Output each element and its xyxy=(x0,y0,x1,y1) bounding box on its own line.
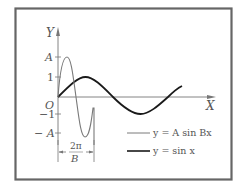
legend-label-sin-x: y = sin x xyxy=(152,145,195,156)
period-numerator: 2π xyxy=(70,141,82,151)
y-ticks: A 1 −1 − A xyxy=(34,51,61,140)
tick-label-neg1: −1 xyxy=(39,108,55,121)
curve-sin-x xyxy=(58,77,182,114)
sine-graph-figure: X Y O A 1 −1 − A 2π B y = A sin Bx y = s… xyxy=(0,0,242,186)
y-axis-label: Y xyxy=(46,26,55,40)
left-arrow-icon xyxy=(59,151,64,154)
period-denominator: B xyxy=(70,153,78,164)
tick-label-1: 1 xyxy=(47,71,54,84)
curve-a-sin-bx xyxy=(58,57,94,145)
x-axis-label: X xyxy=(205,99,215,113)
period-annotation: 2π B xyxy=(58,140,94,164)
right-arrow-icon xyxy=(89,151,94,154)
y-axis-arrow-icon xyxy=(56,27,60,36)
legend: y = A sin Bx y = sin x xyxy=(127,127,212,156)
tick-label-a: A xyxy=(44,51,53,64)
tick-label-neg-a: − A xyxy=(34,127,55,140)
legend-label-a-sin-bx: y = A sin Bx xyxy=(152,127,212,138)
